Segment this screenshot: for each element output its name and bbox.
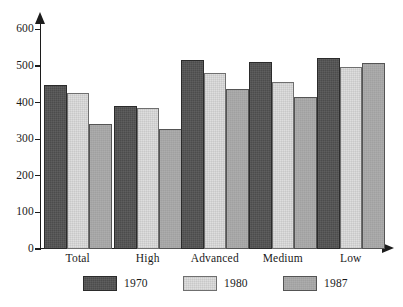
bar-high-1987 (159, 129, 182, 249)
legend-swatch-1970 (83, 276, 117, 291)
bar-low-1987 (362, 63, 385, 249)
bar-low-1980 (340, 67, 363, 249)
bar-medium-1980 (272, 82, 295, 249)
legend-swatch-1987 (283, 276, 317, 291)
bar-advanced-1987 (226, 89, 249, 249)
bar-advanced-1970 (181, 60, 204, 249)
bar-medium-1970 (249, 62, 272, 249)
bar-low-1970 (317, 58, 340, 249)
legend-item-1980: 1980 (183, 274, 248, 292)
y-axis-tick-label: 300 (0, 133, 34, 145)
bar-chart: 0100200300400500600 TotalHighAdvancedMed… (0, 0, 403, 307)
bar-medium-1987 (294, 97, 317, 249)
legend-swatch-1980 (183, 276, 217, 291)
chart-legend: 197019801987 (0, 274, 403, 296)
y-axis-tick-label: 0 (0, 243, 34, 255)
y-axis-tick-label: 500 (0, 60, 34, 72)
y-axis-tick-label: 600 (0, 23, 34, 35)
bar-total-1987 (89, 124, 112, 249)
plot-area (41, 22, 386, 249)
legend-item-1987: 1987 (283, 274, 348, 292)
bar-high-1980 (137, 108, 160, 249)
bar-total-1970 (44, 85, 67, 249)
y-axis-tick-label: 100 (0, 206, 34, 218)
y-axis-tick-label: 400 (0, 97, 34, 109)
x-axis-label-low: Low (306, 252, 396, 264)
y-axis-tick-label: 200 (0, 170, 34, 182)
legend-label-1987: 1987 (324, 277, 348, 289)
bar-advanced-1980 (204, 73, 227, 249)
legend-item-1970: 1970 (83, 274, 148, 292)
bar-high-1970 (114, 106, 137, 249)
bar-total-1980 (67, 93, 90, 249)
legend-label-1980: 1980 (224, 277, 248, 289)
legend-label-1970: 1970 (124, 277, 148, 289)
